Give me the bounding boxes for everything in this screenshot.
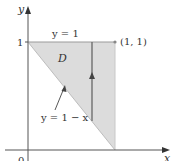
hypotenuse-label: y = 1 − x [40, 112, 88, 123]
y-tick-label: 1 [17, 37, 23, 48]
region-label: D [57, 52, 67, 65]
diagram-canvas: y x 0 1 y = 1 D (1, 1) y = 1 − x [0, 0, 179, 161]
top-line-label: y = 1 [51, 28, 79, 39]
x-axis-label: x [164, 152, 171, 161]
annotation-pointer [55, 88, 64, 110]
point-label: (1, 1) [120, 36, 147, 47]
y-axis-arrow-icon [25, 6, 31, 14]
y-axis-label: y [17, 3, 25, 16]
point-1-1 [113, 40, 116, 43]
origin-label: 0 [18, 155, 24, 161]
